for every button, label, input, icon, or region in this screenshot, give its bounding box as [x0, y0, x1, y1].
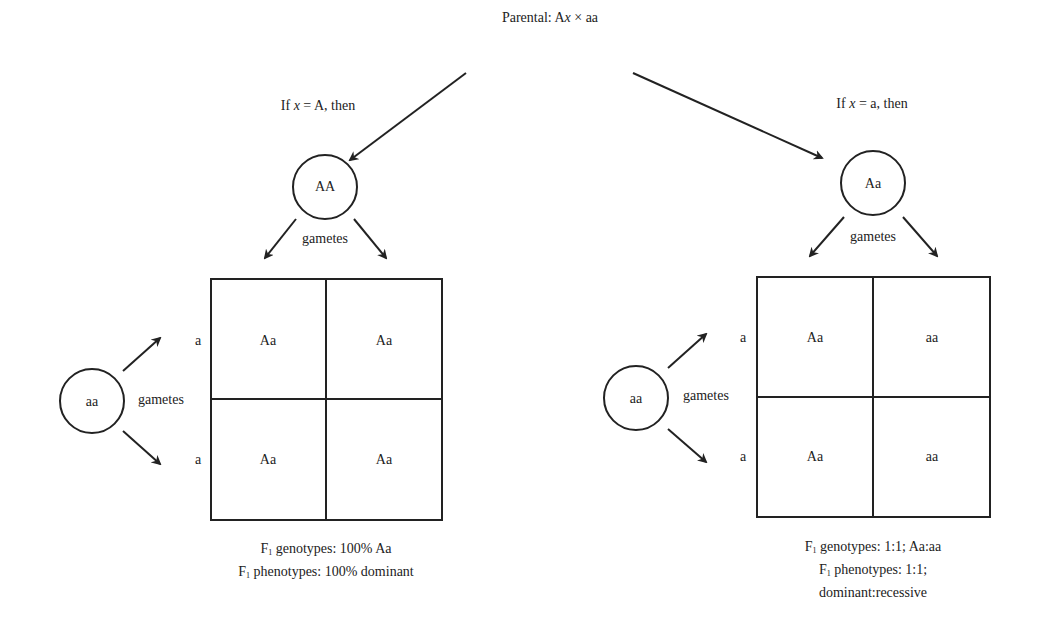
gamete-arrow-right-1 [810, 217, 844, 256]
arrow-to-left-branch [350, 73, 466, 160]
left-cell-r1c2: Aa [376, 333, 392, 349]
left-genotype-summary: F1 genotypes: 100% Aa [238, 539, 414, 562]
side-gamete-arrow-left-2 [123, 431, 160, 464]
right-row-gamete-2: a [740, 449, 746, 465]
left-row-gamete-2: a [195, 452, 201, 468]
right-row-gamete-1: a [740, 330, 746, 346]
right-gametes-label-top: gametes [850, 229, 896, 245]
left-phenotype-summary: F1 phenotypes: 100% dominant [238, 562, 414, 585]
arrow-to-right-branch [633, 73, 822, 158]
side-gamete-arrow-right-1 [668, 334, 706, 368]
right-gametes-label-side: gametes [683, 388, 729, 404]
right-summary: F1 genotypes: 1:1; Aa:aa F1 phenotypes: … [805, 537, 942, 602]
side-gamete-arrow-left-1 [123, 338, 160, 371]
left-gametes-label-side: gametes [138, 392, 184, 408]
left-summary: F1 genotypes: 100% Aa F1 phenotypes: 100… [238, 539, 414, 585]
left-parent-genotype: AA [315, 179, 335, 195]
gamete-arrow-left-2 [354, 219, 386, 258]
right-other-parent-genotype: aa [630, 391, 642, 407]
right-parent-genotype: Aa [865, 176, 881, 192]
gamete-arrow-left-1 [265, 219, 296, 258]
left-cell-r2c2: Aa [376, 452, 392, 468]
right-condition-label: If x = a, then [836, 96, 907, 112]
left-cell-r1c1: Aa [260, 333, 276, 349]
side-gamete-arrow-right-2 [668, 429, 706, 462]
right-cell-r2c1: Aa [807, 449, 823, 465]
left-other-parent-genotype: aa [86, 394, 98, 410]
right-phenotype-ratio-label: dominant:recessive [805, 583, 942, 602]
right-cell-r1c2: aa [926, 330, 938, 346]
right-cell-r1c1: Aa [807, 330, 823, 346]
right-phenotype-summary: F1 phenotypes: 1:1; [805, 560, 942, 583]
left-gametes-label-top: gametes [302, 231, 348, 247]
left-cell-r2c1: Aa [260, 452, 276, 468]
right-cell-r2c2: aa [926, 449, 938, 465]
left-row-gamete-1: a [195, 333, 201, 349]
gamete-arrow-right-2 [903, 217, 937, 256]
right-genotype-summary: F1 genotypes: 1:1; Aa:aa [805, 537, 942, 560]
parental-cross-title: Parental: Ax × aa [502, 10, 598, 26]
left-condition-label: If x = A, then [281, 98, 355, 114]
